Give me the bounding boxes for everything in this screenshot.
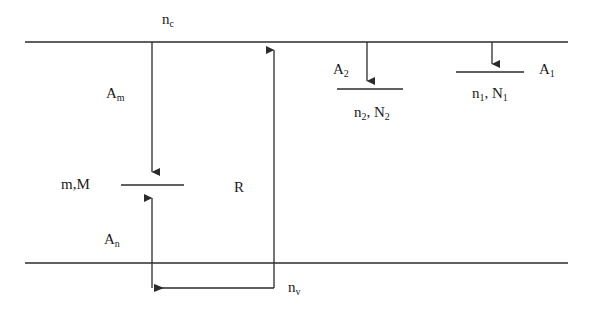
label-nc: nc: [162, 12, 174, 27]
label-R: R: [234, 180, 244, 195]
label-n1-sub: 1: [480, 92, 485, 103]
label-An-base: A: [104, 231, 115, 247]
label-nc-sub: c: [170, 18, 174, 29]
label-A2-sub: 2: [344, 68, 349, 79]
energy-level-diagram: nc Am m,M An R nv A2 n2, N2 A1 n1, N1: [0, 0, 590, 314]
label-An: An: [104, 232, 120, 247]
label-Am-sub: m: [117, 92, 125, 103]
label-An-sub: n: [115, 238, 120, 249]
label-Am: Am: [106, 86, 125, 101]
label-n1-sep: , N: [485, 85, 503, 101]
label-Am-base: A: [106, 85, 117, 101]
label-nv: nv: [288, 280, 301, 295]
label-nv-sub: v: [296, 286, 301, 297]
label-m-M: m,M: [61, 177, 90, 192]
label-nv-base: n: [288, 279, 296, 295]
label-N2-sub: 2: [385, 111, 390, 122]
label-N1-sub: 1: [503, 92, 508, 103]
label-A1: A1: [539, 62, 555, 77]
label-A2: A2: [333, 62, 349, 77]
label-n1-N1: n1, N1: [472, 86, 508, 101]
label-n2-sep: , N: [367, 104, 385, 120]
label-A1-base: A: [539, 61, 550, 77]
label-nc-base: n: [162, 11, 170, 27]
diagram-canvas: [0, 0, 590, 314]
label-A1-sub: 1: [550, 68, 555, 79]
label-n2-sub: 2: [362, 111, 367, 122]
label-n2-N2: n2, N2: [354, 105, 390, 120]
label-n2-base: n: [354, 104, 362, 120]
label-A2-base: A: [333, 61, 344, 77]
label-n1-base: n: [472, 85, 480, 101]
